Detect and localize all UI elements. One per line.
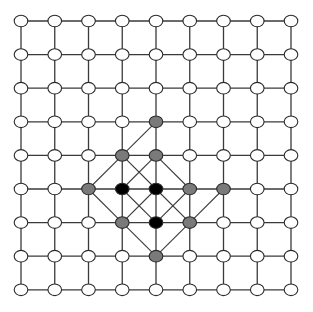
node-white bbox=[115, 15, 129, 27]
node-white bbox=[14, 15, 28, 27]
node-white bbox=[149, 82, 163, 94]
node-gray bbox=[82, 183, 96, 195]
node-white bbox=[284, 284, 298, 296]
node-white bbox=[48, 150, 62, 162]
node-gray bbox=[149, 150, 163, 162]
node-white bbox=[82, 150, 96, 162]
node-white bbox=[48, 217, 62, 229]
node-black bbox=[149, 183, 163, 195]
node-gray bbox=[149, 250, 163, 262]
node-white bbox=[250, 116, 264, 128]
node-white bbox=[115, 250, 129, 262]
node-white bbox=[250, 183, 264, 195]
node-white bbox=[284, 217, 298, 229]
node-white bbox=[250, 15, 264, 27]
node-white bbox=[217, 82, 231, 94]
node-black bbox=[149, 217, 163, 229]
lattice-diagram bbox=[0, 0, 313, 312]
node-white bbox=[14, 150, 28, 162]
node-white bbox=[115, 82, 129, 94]
node-white bbox=[284, 150, 298, 162]
diagonal-edge bbox=[190, 189, 224, 223]
node-gray bbox=[115, 217, 129, 229]
diagonal-edge bbox=[89, 189, 123, 223]
node-white bbox=[217, 150, 231, 162]
node-white bbox=[149, 49, 163, 61]
node-white bbox=[284, 82, 298, 94]
node-white bbox=[284, 49, 298, 61]
node-white bbox=[250, 82, 264, 94]
node-white bbox=[48, 49, 62, 61]
node-white bbox=[48, 284, 62, 296]
node-white bbox=[183, 284, 197, 296]
node-gray bbox=[183, 183, 197, 195]
node-white bbox=[14, 82, 28, 94]
node-white bbox=[183, 49, 197, 61]
node-white bbox=[48, 183, 62, 195]
node-white bbox=[14, 250, 28, 262]
node-white bbox=[217, 15, 231, 27]
nodes bbox=[14, 15, 298, 295]
node-white bbox=[48, 82, 62, 94]
node-white bbox=[14, 217, 28, 229]
node-white bbox=[217, 250, 231, 262]
node-white bbox=[48, 116, 62, 128]
node-white bbox=[284, 250, 298, 262]
node-white bbox=[48, 15, 62, 27]
node-white bbox=[115, 116, 129, 128]
node-white bbox=[82, 250, 96, 262]
diagonal-edge bbox=[122, 223, 156, 257]
node-white bbox=[82, 82, 96, 94]
node-white bbox=[217, 217, 231, 229]
node-gray bbox=[217, 183, 231, 195]
node-white bbox=[217, 284, 231, 296]
node-white bbox=[250, 150, 264, 162]
node-white bbox=[250, 284, 264, 296]
node-gray bbox=[115, 150, 129, 162]
node-white bbox=[183, 82, 197, 94]
node-white bbox=[183, 116, 197, 128]
node-white bbox=[217, 116, 231, 128]
node-white bbox=[48, 250, 62, 262]
node-black bbox=[115, 183, 129, 195]
node-white bbox=[82, 284, 96, 296]
node-white bbox=[115, 284, 129, 296]
node-white bbox=[149, 284, 163, 296]
node-white bbox=[284, 15, 298, 27]
diagonal-edge bbox=[122, 122, 156, 156]
node-white bbox=[82, 217, 96, 229]
node-white bbox=[284, 116, 298, 128]
node-white bbox=[250, 217, 264, 229]
diagonal-edge bbox=[156, 223, 190, 257]
node-white bbox=[183, 15, 197, 27]
node-white bbox=[14, 116, 28, 128]
node-white bbox=[82, 116, 96, 128]
node-gray bbox=[183, 217, 197, 229]
node-white bbox=[14, 183, 28, 195]
node-white bbox=[82, 49, 96, 61]
node-white bbox=[183, 250, 197, 262]
node-white bbox=[217, 49, 231, 61]
diagonal-edge bbox=[89, 155, 123, 189]
diagonal-edge bbox=[156, 155, 190, 189]
node-gray bbox=[149, 116, 163, 128]
node-white bbox=[115, 49, 129, 61]
node-white bbox=[250, 49, 264, 61]
node-white bbox=[14, 49, 28, 61]
node-white bbox=[14, 284, 28, 296]
node-white bbox=[82, 15, 96, 27]
node-white bbox=[284, 183, 298, 195]
node-white bbox=[183, 150, 197, 162]
node-white bbox=[149, 15, 163, 27]
node-white bbox=[250, 250, 264, 262]
